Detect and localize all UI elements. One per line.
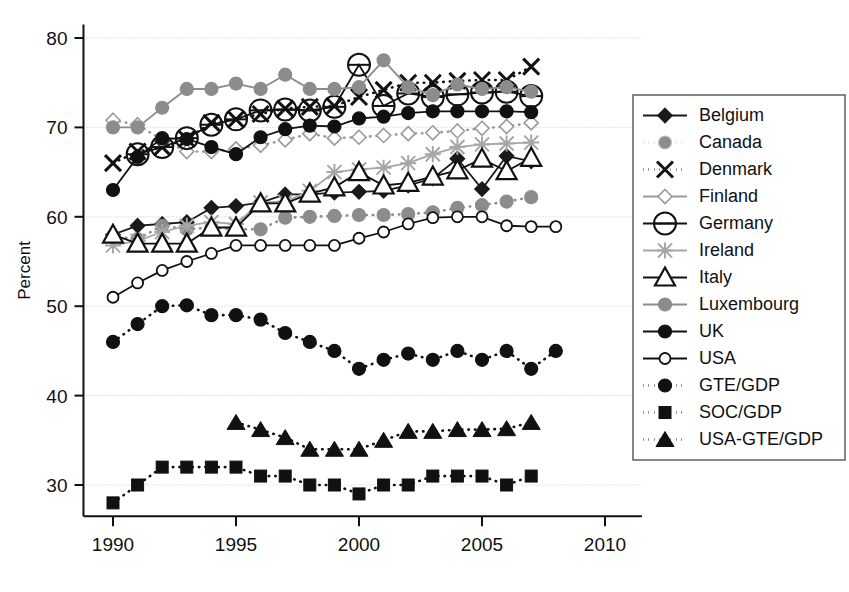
legend-label: USA xyxy=(699,348,736,368)
x-tick-label: 1990 xyxy=(92,534,134,555)
chart-figure: 304050607080 19901995200020052010 Percen… xyxy=(0,0,849,592)
legend-label: Belgium xyxy=(699,105,764,125)
legend-label: Canada xyxy=(699,132,763,152)
y-tick-label: 70 xyxy=(46,117,67,138)
y-tick-label: 60 xyxy=(46,207,67,228)
x-tick-label: 2005 xyxy=(461,534,503,555)
legend-label: Ireland xyxy=(699,240,754,260)
legend-label: Luxembourg xyxy=(699,294,799,314)
x-tick-label: 2010 xyxy=(584,534,626,555)
chart-legend: BelgiumCanadaDenmarkFinlandGermanyIrelan… xyxy=(633,95,845,460)
legend-label: USA-GTE/GDP xyxy=(699,429,823,449)
y-tick-label: 40 xyxy=(46,386,67,407)
line-chart-svg: 304050607080 19901995200020052010 Percen… xyxy=(0,0,849,592)
legend-label: GTE/GDP xyxy=(699,375,780,395)
y-tick-label: 50 xyxy=(46,296,67,317)
legend-label: Germany xyxy=(699,213,773,233)
y-axis-title: Percent xyxy=(15,241,34,300)
legend-label: UK xyxy=(699,321,724,341)
legend-label: SOC/GDP xyxy=(699,402,782,422)
y-tick-label: 30 xyxy=(46,475,67,496)
legend-label: Italy xyxy=(699,267,732,287)
legend-label: Finland xyxy=(699,186,758,206)
x-tick-label: 2000 xyxy=(338,534,380,555)
y-tick-label: 80 xyxy=(46,28,67,49)
x-tick-label: 1995 xyxy=(215,534,257,555)
legend-label: Denmark xyxy=(699,159,773,179)
